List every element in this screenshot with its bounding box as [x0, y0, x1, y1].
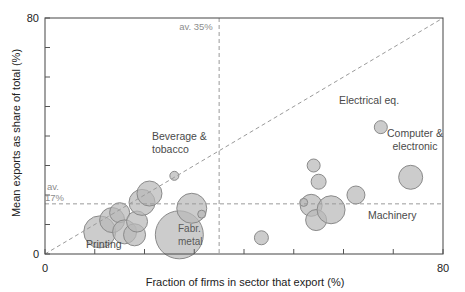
bubble-10 [177, 193, 207, 223]
label-electrical-eq: Electrical eq. [339, 94, 399, 106]
av-y-annotation-line1: av. [47, 181, 59, 192]
bubble-19 [347, 186, 365, 204]
bubble-14 [311, 174, 326, 189]
label-fabr-metal-line1: Fabr. [178, 223, 201, 234]
label-machinery: Machinery [368, 209, 417, 221]
y-axis-title: Mean exports as share of total (%) [10, 49, 22, 217]
label-fabr-metal-line2: metal [178, 236, 202, 247]
label-printing: Printing [86, 238, 122, 250]
bubble-16 [300, 198, 308, 206]
bubble-13 [307, 159, 320, 172]
bubble-electrical-eq [374, 121, 387, 134]
chart-canvas: av. 35% av. 17% Printing Beverage & toba… [0, 0, 465, 292]
bubble-machinery [317, 196, 345, 224]
x-axis-min-label: 0 [42, 262, 48, 274]
bubble-7 [137, 181, 162, 206]
av-y-annotation-line2: 17% [45, 192, 65, 203]
bubble-beverage-tobacco [170, 171, 179, 180]
y-axis-min-label: 0 [33, 248, 39, 260]
label-computer-line2: electronic [393, 140, 438, 152]
bubble-12 [254, 231, 268, 245]
label-beverage-line1: Beverage & [152, 130, 207, 142]
label-beverage-line2: tobacco [152, 143, 189, 155]
y-axis-max-label: 80 [27, 12, 39, 24]
label-computer-line1: Computer & [387, 127, 443, 139]
x-axis-max-label: 80 [437, 262, 449, 274]
bubble-chart-figure: av. 35% av. 17% Printing Beverage & toba… [0, 0, 465, 292]
av-x-annotation: av. 35% [179, 21, 213, 32]
bubble-11 [198, 210, 206, 218]
x-axis-title: Fraction of firms in sector that export … [146, 276, 345, 288]
bubble-computer-electronic [399, 165, 423, 189]
